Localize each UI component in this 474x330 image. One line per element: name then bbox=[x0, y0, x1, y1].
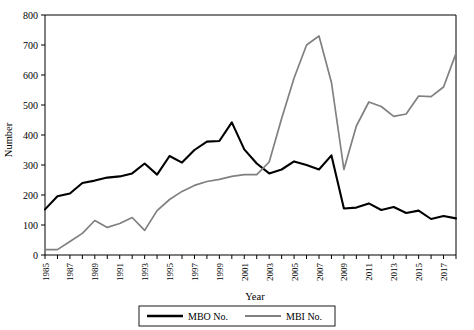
y-tick-label: 800 bbox=[23, 10, 38, 21]
line-chart-figure: 0100200300400500600700800 19851987198919… bbox=[0, 0, 474, 330]
x-tick-label: 2017 bbox=[439, 263, 449, 282]
x-tick-label: 1989 bbox=[90, 263, 100, 282]
x-tick-label: 1987 bbox=[65, 263, 75, 282]
legend-item-label: MBO No. bbox=[188, 311, 228, 322]
y-axis: 0100200300400500600700800 bbox=[23, 10, 45, 261]
series-line-mbi-no bbox=[45, 36, 456, 250]
x-tick-label: 2003 bbox=[265, 263, 275, 282]
y-tick-label: 700 bbox=[23, 40, 38, 51]
y-axis-title: Number bbox=[3, 122, 14, 157]
x-tick-label: 2013 bbox=[389, 263, 399, 282]
x-tick-label: 2001 bbox=[240, 263, 250, 281]
x-tick-label: 1991 bbox=[115, 263, 125, 281]
x-tick-label: 1997 bbox=[190, 263, 200, 282]
chart-canvas: 0100200300400500600700800 19851987198919… bbox=[0, 0, 474, 330]
y-tick-label: 400 bbox=[23, 130, 38, 141]
plot-frame bbox=[45, 15, 456, 255]
legend-item-label: MBI No. bbox=[286, 311, 322, 322]
y-tick-label: 600 bbox=[23, 70, 38, 81]
x-tick-label: 1995 bbox=[165, 263, 175, 282]
x-tick-label: 2005 bbox=[290, 263, 300, 282]
x-tick-label: 2009 bbox=[339, 263, 349, 282]
x-axis-title: Year bbox=[245, 291, 265, 302]
x-tick-label: 1993 bbox=[140, 263, 150, 282]
x-tick-label: 2015 bbox=[414, 263, 424, 282]
x-axis: 1985198719891991199319951997199920012003… bbox=[41, 255, 457, 281]
y-tick-label: 300 bbox=[23, 160, 38, 171]
x-tick-label: 2007 bbox=[315, 263, 325, 282]
x-tick-label: 1985 bbox=[41, 263, 51, 282]
series-line-mbo-no bbox=[45, 122, 456, 219]
y-tick-label: 200 bbox=[23, 190, 38, 201]
y-tick-label: 500 bbox=[23, 100, 38, 111]
x-tick-label: 1999 bbox=[215, 263, 225, 282]
chart-legend: MBO No.MBI No. bbox=[139, 306, 335, 326]
y-tick-label: 100 bbox=[23, 220, 38, 231]
y-tick-label: 0 bbox=[33, 250, 38, 261]
data-series-group bbox=[45, 36, 456, 250]
x-tick-label: 2011 bbox=[364, 263, 374, 281]
